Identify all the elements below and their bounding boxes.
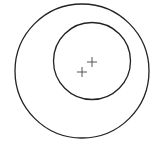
circles-diagram xyxy=(0,0,156,146)
inner-center-cross-icon xyxy=(87,57,97,67)
outer-center-cross-icon xyxy=(77,67,87,77)
